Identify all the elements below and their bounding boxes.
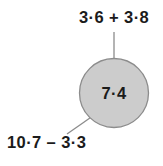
top-expression-label: 3·6 + 3·8 <box>79 9 149 26</box>
bottom-expression-label: 10·7 – 3·3 <box>7 134 86 151</box>
diagram-canvas: 7·4 3·6 + 3·8 10·7 – 3·3 <box>0 0 163 166</box>
value-bubble[interactable] <box>80 59 149 128</box>
bottom-left-connector-line <box>67 116 94 135</box>
